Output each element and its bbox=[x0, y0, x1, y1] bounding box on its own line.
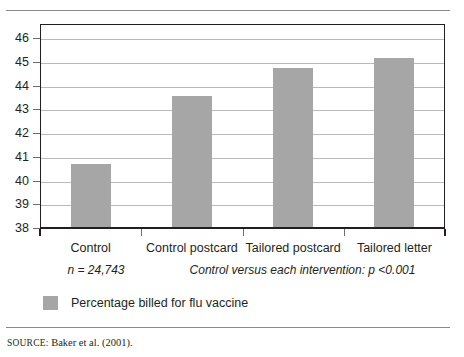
legend-swatch-icon bbox=[43, 296, 58, 310]
x-axis-label: Tailored letter bbox=[344, 240, 445, 257]
x-axis-tick bbox=[141, 229, 142, 236]
y-tick-mark bbox=[33, 204, 40, 205]
chart-legend: Percentage billed for flu vaccine bbox=[43, 296, 248, 310]
gridline bbox=[41, 63, 444, 64]
y-tick-mark bbox=[33, 133, 40, 134]
y-axis-tick: 43 bbox=[0, 109, 40, 110]
y-tick-label: 42 bbox=[15, 124, 29, 142]
y-tick-mark bbox=[33, 109, 40, 110]
x-axis-tick bbox=[344, 229, 345, 236]
y-axis-tick: 38 bbox=[0, 228, 40, 229]
gridline bbox=[41, 182, 444, 183]
x-axis-label: Control bbox=[40, 240, 141, 257]
gridline bbox=[41, 158, 444, 159]
y-tick-mark bbox=[33, 38, 40, 39]
gridline bbox=[41, 87, 444, 88]
y-axis: 383940414243444546 bbox=[0, 24, 40, 228]
gridlines-group bbox=[41, 25, 444, 227]
chart-plot-area bbox=[40, 24, 445, 228]
gridline bbox=[41, 205, 444, 206]
x-axis-label: Control postcard bbox=[141, 240, 242, 257]
y-tick-label: 45 bbox=[15, 53, 29, 71]
y-tick-label: 41 bbox=[15, 148, 29, 166]
y-tick-mark bbox=[33, 62, 40, 63]
y-axis-tick: 39 bbox=[0, 204, 40, 205]
y-tick-mark bbox=[33, 157, 40, 158]
x-axis-tick bbox=[243, 229, 244, 236]
y-axis-tick: 44 bbox=[0, 86, 40, 87]
gridline bbox=[41, 110, 444, 111]
y-tick-mark bbox=[33, 86, 40, 87]
y-axis-tick: 40 bbox=[0, 181, 40, 182]
y-tick-mark bbox=[33, 181, 40, 182]
y-tick-label: 40 bbox=[15, 172, 29, 190]
x-axis-tick bbox=[39, 229, 41, 236]
source-citation: Baker et al. (2001). bbox=[49, 337, 133, 348]
y-tick-label: 39 bbox=[15, 195, 29, 213]
legend-item-label: Percentage billed for flu vaccine bbox=[71, 296, 248, 310]
source-note: SOURCE: Baker et al. (2001). bbox=[7, 337, 133, 348]
y-axis-tick: 42 bbox=[0, 133, 40, 134]
y-axis-tick: 46 bbox=[0, 38, 40, 39]
y-axis-tick: 41 bbox=[0, 157, 40, 158]
y-tick-label: 38 bbox=[15, 219, 29, 237]
x-axis-labels: ControlControl postcardTailored postcard… bbox=[40, 240, 445, 260]
x-axis-ticks bbox=[40, 229, 445, 237]
y-tick-label: 44 bbox=[15, 77, 29, 95]
sample-size-note: n = 24,743 bbox=[40, 263, 152, 277]
y-axis-tick: 45 bbox=[0, 62, 40, 63]
x-axis-label: Tailored postcard bbox=[243, 240, 344, 257]
y-tick-label: 46 bbox=[15, 29, 29, 47]
x-axis-tick bbox=[444, 229, 446, 236]
gridline bbox=[41, 134, 444, 135]
y-tick-label: 43 bbox=[15, 100, 29, 118]
significance-note: Control versus each intervention: p <0.0… bbox=[160, 263, 445, 277]
gridline bbox=[41, 39, 444, 40]
bottom-divider-rule bbox=[6, 327, 450, 328]
source-label: SOURCE: bbox=[7, 338, 49, 348]
top-divider-rule bbox=[6, 10, 450, 11]
